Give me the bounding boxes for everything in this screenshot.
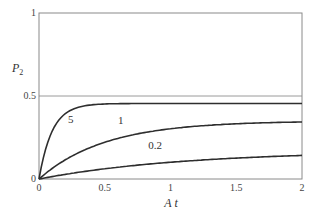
x-tick-label: 0 [37, 182, 42, 193]
x-tick-label: 2 [300, 182, 305, 193]
curve-1 [39, 122, 302, 179]
curve-label-5: 5 [68, 113, 74, 125]
y-axis-ticks: 00.51 [24, 7, 37, 184]
x-axis-label: A t [163, 196, 178, 210]
chart: 510.2 00.511.52 00.51 P2 A t [0, 0, 318, 218]
y-tick-label: 0 [31, 173, 36, 184]
curve-5 [39, 104, 302, 180]
y-tick-label: 0.5 [24, 90, 37, 101]
x-tick-label: 1 [168, 182, 173, 193]
y-tick-label: 1 [31, 7, 36, 18]
x-tick-label: 1.5 [230, 182, 243, 193]
curves [39, 104, 302, 180]
y-axis-label: P2 [11, 61, 23, 77]
x-tick-label: 0.5 [99, 182, 112, 193]
x-axis-ticks: 00.511.52 [37, 182, 305, 193]
curve-label-0-2: 0.2 [148, 139, 162, 151]
curve-0-2 [39, 155, 302, 179]
curve-label-1: 1 [118, 114, 124, 126]
